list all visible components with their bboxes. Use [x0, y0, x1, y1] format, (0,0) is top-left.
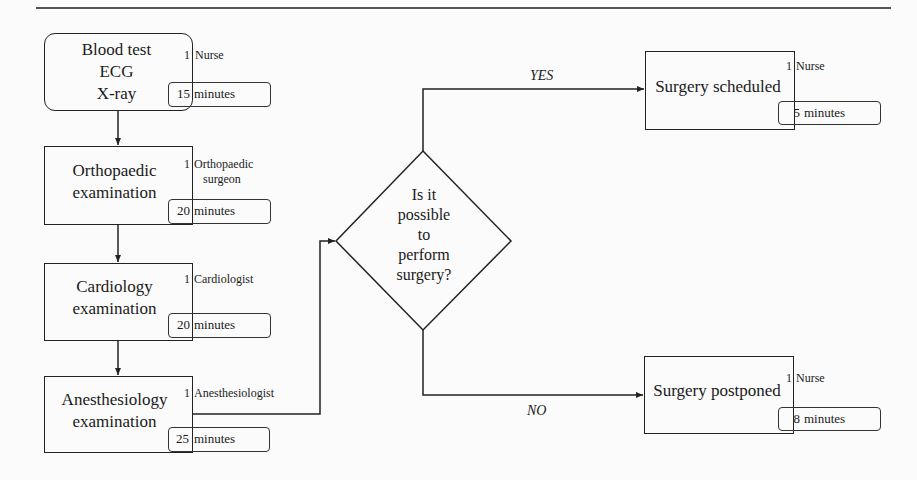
duration-value: 8: [794, 408, 801, 430]
no-label: NO: [527, 403, 546, 419]
step-line: examination: [72, 298, 156, 320]
duration-box: 15 minutes: [168, 82, 271, 107]
step-line: Anesthesiology: [62, 389, 168, 411]
staff-role: Nurse: [796, 371, 825, 385]
staff-count: 1: [184, 48, 190, 62]
divider: [192, 47, 193, 63]
staff-count: 1: [184, 272, 190, 286]
question-line: possible: [366, 205, 482, 225]
question-line: to: [366, 225, 482, 245]
duration-unit: minutes: [804, 408, 845, 430]
staff-count: 1: [786, 59, 792, 73]
staff-role-line-2: surgeon: [203, 172, 241, 186]
duration-unit: minutes: [194, 314, 235, 336]
step-line: ECG: [82, 61, 151, 83]
duration-unit: minutes: [194, 200, 235, 222]
outcome-label: Surgery postponed: [653, 380, 781, 402]
staff-count: 1: [786, 371, 792, 385]
staff-count: 1: [184, 157, 190, 171]
step-line: Orthopaedic: [72, 160, 156, 182]
duration-unit: minutes: [194, 428, 235, 450]
duration-value: 5: [794, 102, 801, 124]
decision-question: Is it possible to perform surgery?: [366, 185, 482, 285]
outcome-surgery-postponed: Surgery postponed: [644, 356, 794, 434]
duration-value: 20: [177, 200, 190, 222]
duration-box: 20 minutes: [168, 199, 271, 224]
duration-box: 25 minutes: [168, 427, 270, 452]
question-line: perform: [366, 245, 482, 265]
staff-count: 1: [184, 386, 190, 400]
staff-role: Cardiologist: [194, 272, 253, 286]
staff-role: Nurse: [195, 48, 224, 62]
question-line: surgery?: [366, 265, 482, 285]
staff-info: 1: [184, 48, 190, 62]
outcome-surgery-scheduled: Surgery scheduled: [645, 51, 795, 130]
outcome-label: Surgery scheduled: [655, 76, 781, 98]
staff-role: Anesthesiologist: [194, 386, 274, 400]
staff-role-line-1: Orthopaedic: [194, 157, 253, 171]
duration-unit: minutes: [804, 102, 845, 124]
yes-label: YES: [530, 68, 553, 84]
duration-box: 5 minutes: [778, 101, 881, 125]
question-line: Is it: [366, 185, 482, 205]
duration-value: 15: [177, 83, 190, 105]
step-line: Cardiology: [72, 276, 156, 298]
duration-box: 20 minutes: [168, 313, 271, 338]
duration-box: 8 minutes: [778, 407, 881, 431]
step-line: examination: [72, 182, 156, 204]
step-line: examination: [62, 411, 168, 433]
duration-value: 20: [177, 314, 190, 336]
step-line: Blood test: [82, 39, 151, 61]
staff-role: Nurse: [796, 59, 825, 73]
step-line: X-ray: [82, 83, 151, 105]
duration-unit: minutes: [194, 83, 235, 105]
duration-value: 25: [176, 428, 189, 450]
